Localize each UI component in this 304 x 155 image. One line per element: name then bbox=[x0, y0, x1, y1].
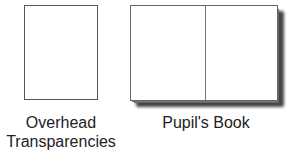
book-spread bbox=[130, 5, 278, 101]
label-line-2: Transparencies bbox=[0, 132, 122, 151]
overhead-transparency-page bbox=[24, 5, 98, 100]
book-spine bbox=[205, 6, 206, 102]
open-book-icon bbox=[130, 5, 280, 103]
pupils-book-label: Pupil's Book bbox=[150, 113, 262, 132]
overhead-transparencies-label: Overhead Transparencies bbox=[0, 113, 122, 151]
label-line-1: Overhead bbox=[0, 113, 122, 132]
